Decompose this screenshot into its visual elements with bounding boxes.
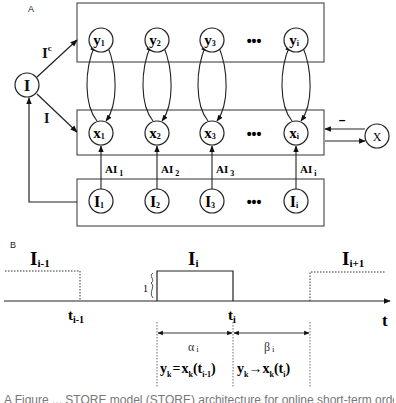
beta-label: βi	[264, 340, 275, 354]
ellipsis-y: •••	[247, 33, 262, 49]
pulse-current	[157, 271, 233, 301]
feedback-edge	[29, 98, 77, 202]
svg-text:I: I	[24, 76, 31, 95]
panel-b-label: B	[10, 240, 16, 250]
ai-label-3: AI3	[216, 163, 234, 178]
pulse-prev	[5, 271, 80, 301]
complement-label: Ic	[42, 43, 52, 61]
pulse-prev-label: Ii-1	[30, 248, 50, 269]
tick-t-prev: ti-1	[68, 307, 84, 325]
input-node: I	[15, 73, 39, 97]
inhibition-sign: –	[339, 113, 346, 127]
column-1: y1 x1 AI1 I1	[87, 28, 123, 213]
column-2: y2 x2 AI2 I2	[143, 28, 179, 213]
alpha-rule: yk=xk(ti-1)	[160, 361, 216, 379]
direct-edge	[37, 94, 77, 132]
amplitude-label: 1	[143, 283, 148, 294]
direct-label: I	[44, 111, 49, 126]
amplitude-brace	[151, 273, 153, 298]
pulse-current-label: Ii	[188, 248, 198, 269]
figure-caption: A Figure ... STORE model (STORE) archite…	[4, 393, 394, 403]
pulse-next-label: Ii+1	[342, 248, 364, 269]
panel-a-label: A	[28, 4, 34, 14]
column-i: yi xi AIi Ii	[282, 28, 317, 213]
ellipsis-input: •••	[247, 194, 262, 210]
ai-label-i: AIi	[300, 163, 317, 178]
time-axis-label: t	[382, 311, 388, 330]
ai-label-2: AI2	[161, 163, 179, 178]
svg-text:X: X	[373, 130, 382, 144]
alpha-label: αi	[188, 340, 199, 354]
beta-rule: yk→xk(ti)	[237, 361, 290, 379]
column-3: y3 x3 AI3 I3	[198, 28, 234, 213]
pulse-next	[310, 272, 386, 301]
ai-label-1: AI1	[105, 163, 123, 178]
inhibitor-node: X	[365, 124, 389, 148]
tick-t-current: ti	[228, 307, 236, 325]
ellipsis-x: •••	[247, 126, 262, 142]
